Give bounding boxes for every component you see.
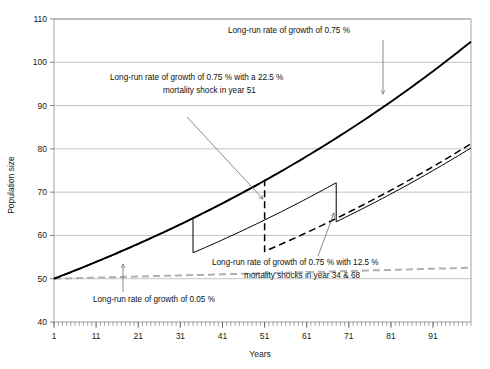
x-tick-label: 71 <box>344 331 354 341</box>
y-tick-label: 70 <box>38 187 48 197</box>
y-axis-ticks <box>50 19 54 322</box>
x-tick-label: 61 <box>302 331 312 341</box>
x-tick-label: 41 <box>218 331 228 341</box>
x-tick-label: 21 <box>134 331 144 341</box>
y-axis-title: Population size <box>6 156 16 214</box>
plot-gridlines <box>54 19 471 279</box>
x-tick-label: 91 <box>428 331 438 341</box>
annotation-growth-075-text: Long-run rate of growth of 0.75 % <box>228 26 350 35</box>
population-growth-chart: 405060708090100110 1112131415161718191 P… <box>0 0 490 369</box>
y-tick-label: 50 <box>38 274 48 284</box>
annotation-shock-225-arrow <box>187 117 263 199</box>
x-tick-label: 81 <box>386 331 396 341</box>
x-axis-ticks <box>54 322 471 328</box>
annotation-shock-125-line2: mortality shocks in year 34 & 68 <box>244 271 360 280</box>
y-tick-label: 110 <box>33 14 47 24</box>
x-tick-label: 11 <box>92 331 101 341</box>
y-tick-label: 80 <box>38 144 48 154</box>
y-tick-label: 60 <box>38 230 48 240</box>
y-tick-label: 90 <box>38 101 48 111</box>
annotation-shock-225-line1: Long-run rate of growth of 0.75 % with a… <box>110 73 283 82</box>
x-tick-label: 1 <box>52 331 57 341</box>
y-tick-label: 40 <box>38 317 48 327</box>
x-axis-title: Years <box>249 349 270 359</box>
annotation-shock-125-line1: Long-run rate of growth of 0.75 % with 1… <box>212 258 379 267</box>
annotation-growth-005-text: Long-run rate of growth of 0.05 % <box>93 295 215 304</box>
y-axis-tick-labels: 405060708090100110 <box>33 14 47 327</box>
annotation-growth-075: Long-run rate of growth of 0.75 % <box>228 26 383 94</box>
annotation-shock-225-line2: mortality shock in year 51 <box>163 86 256 95</box>
annotation-growth-005: Long-run rate of growth of 0.05 % <box>93 264 215 304</box>
x-axis-tick-labels: 1112131415161718191 <box>52 331 438 341</box>
x-tick-label: 31 <box>176 331 186 341</box>
annotation-shock-225: Long-run rate of growth of 0.75 % with a… <box>110 73 283 199</box>
x-tick-label: 51 <box>260 331 270 341</box>
y-tick-label: 100 <box>33 57 47 67</box>
annotation-shock-125-arrow <box>318 213 334 256</box>
